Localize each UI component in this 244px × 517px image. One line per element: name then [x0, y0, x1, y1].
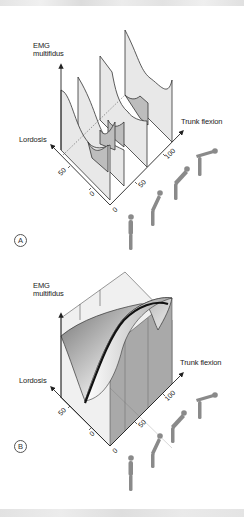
figure-bent-60: [174, 166, 190, 200]
panel-label-a: A: [14, 234, 27, 247]
panel-b: EMG multifidus Lordosis Trunk flexion 0 …: [0, 258, 244, 508]
lordosis-axis-label: Lordosis: [19, 136, 47, 144]
trunk-flexion-axis-label: Trunk flexion: [181, 118, 222, 126]
human-figure-sequence: [128, 148, 218, 250]
panel-a: EMG multifidus Lordosis Trunk flexion 0 …: [0, 0, 244, 258]
figure-bent-90: [196, 392, 218, 419]
panel-a-plot: [0, 0, 244, 258]
lordosis-axis-label: Lordosis: [19, 377, 47, 385]
figure-bent-30: [151, 190, 163, 226]
figure-bent-60: [171, 410, 187, 443]
trunk-flexion-axis-label: Trunk flexion: [180, 359, 221, 367]
figure-upright: [128, 455, 134, 491]
figure-bent-90: [196, 148, 218, 176]
bottom-border-strip: [0, 509, 244, 517]
figure-bent-30: [151, 433, 163, 468]
panel-label-b: B: [14, 440, 27, 453]
figure-upright: [128, 214, 134, 250]
emg-axis-label-line2: multifidus: [33, 50, 64, 58]
emg-axis-label-line2: multifidus: [33, 290, 64, 298]
